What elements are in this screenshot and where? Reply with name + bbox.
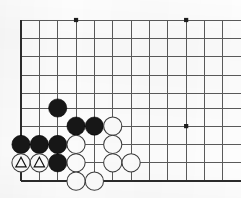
star-top-right-icon: [184, 18, 188, 22]
stone-white-6[interactable]: [122, 154, 140, 172]
stone-white-5[interactable]: [104, 154, 122, 172]
stone-black-6[interactable]: [49, 135, 67, 153]
go-board-diagram: [0, 0, 241, 198]
stone-white-2[interactable]: [67, 135, 85, 153]
stone-white-3[interactable]: [104, 135, 122, 153]
stone-black-4[interactable]: [12, 135, 30, 153]
stone-white-7[interactable]: [67, 172, 85, 190]
stone-black-2[interactable]: [67, 117, 85, 135]
stone-black-7[interactable]: [49, 154, 67, 172]
star-right-center-icon: [184, 124, 188, 128]
stone-black-1[interactable]: [49, 99, 67, 117]
stone-black-5[interactable]: [30, 135, 48, 153]
stone-white-8[interactable]: [85, 172, 103, 190]
stone-white-4[interactable]: [67, 154, 85, 172]
stone-white-1[interactable]: [104, 117, 122, 135]
star-top-left-icon: [74, 18, 78, 22]
go-board[interactable]: [0, 0, 241, 198]
stone-black-3[interactable]: [85, 117, 103, 135]
